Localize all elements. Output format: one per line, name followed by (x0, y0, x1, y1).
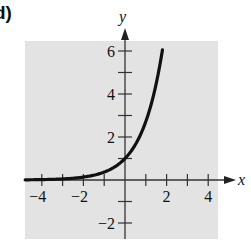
x-tick-label: 2 (163, 188, 171, 205)
y-tick-label: −2 (98, 215, 115, 232)
exponential-graph: xy −4−224642−2 (0, 0, 251, 242)
x-tick-label: 4 (204, 188, 212, 205)
y-tick-label: 4 (107, 86, 115, 103)
x-axis-label: x (237, 171, 245, 188)
x-tick-label: −2 (71, 188, 88, 205)
y-tick-label: 2 (107, 129, 115, 146)
plot-background (25, 41, 218, 239)
x-axis-arrow-icon (224, 176, 236, 184)
y-tick-label: 6 (107, 43, 115, 60)
x-tick-label: −4 (29, 188, 46, 205)
y-axis-label: y (117, 8, 127, 26)
y-axis-arrow-icon (121, 28, 129, 40)
